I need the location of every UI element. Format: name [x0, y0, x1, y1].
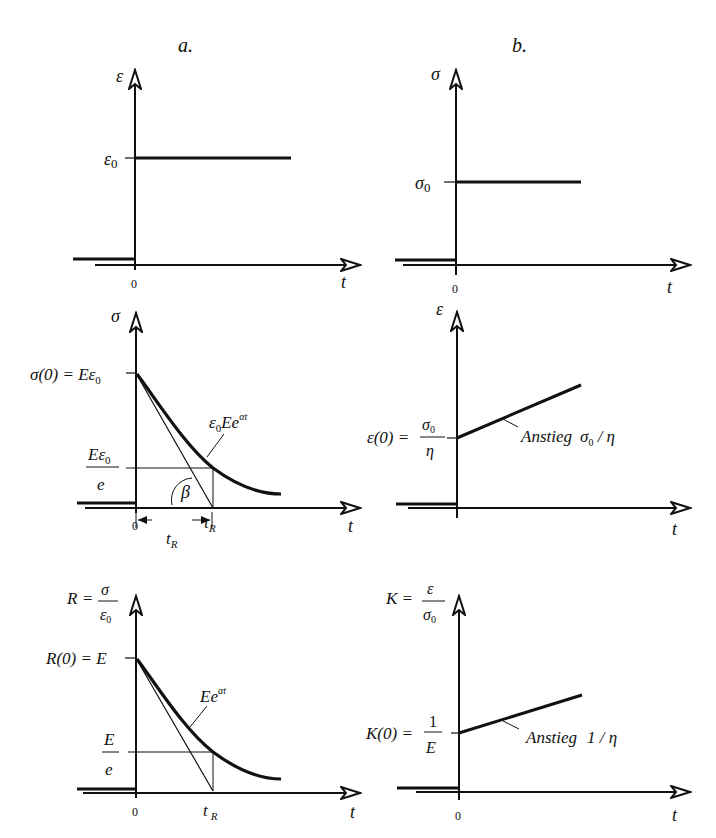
svg-text:σ0: σ0 — [422, 416, 435, 435]
svg-text:Eε0: Eε0 — [87, 445, 111, 466]
x-axis-label: t — [672, 805, 678, 825]
svg-text:σ0: σ0 — [423, 606, 436, 625]
column-label-a: a. — [178, 34, 193, 56]
level-label: ε0 — [104, 149, 118, 171]
level-label: σ0 — [415, 173, 430, 195]
curve-label: ε0Eeαt — [209, 411, 247, 434]
e-fraction-label: E e — [102, 730, 119, 779]
slope-label: Anstieg1 / η — [525, 728, 617, 747]
tR-label: tR — [203, 801, 218, 822]
curve-label-leader — [207, 434, 224, 457]
slope-label: Anstiegσ0 / η — [520, 427, 615, 448]
x-axis-label: t — [350, 802, 356, 822]
x-axis-label: t — [348, 516, 354, 536]
svg-text:σ: σ — [101, 581, 110, 598]
svg-text:K =: K = — [385, 589, 413, 608]
tau-label: τR — [203, 513, 216, 534]
origin-label: 0 — [132, 805, 138, 819]
relaxation-curve — [137, 374, 281, 494]
y-axis-label: K = ε σ0 — [385, 580, 445, 625]
angle-label: β — [180, 482, 190, 502]
origin-label: 0 — [455, 809, 461, 823]
svg-text:E: E — [103, 730, 115, 749]
rheology-diagram: a. b. ε ε0 0 t σ σ0 0 t — [0, 0, 716, 838]
x-axis-label: t — [667, 277, 673, 297]
svg-text:e: e — [105, 760, 113, 779]
start-value-label: K(0) = 1 E — [365, 713, 442, 756]
panel-b1-stress-step: σ σ0 0 t — [395, 64, 690, 297]
start-value-label: σ(0) = Eε0 — [30, 365, 101, 386]
svg-text:η: η — [426, 442, 434, 460]
svg-text:ε: ε — [427, 580, 434, 597]
x-axis-label: t — [341, 272, 347, 292]
svg-text:ε0: ε0 — [100, 606, 111, 625]
panel-a3-relaxation-function: R = σ ε0 R(0) = E E e Eeαt 0 tR t — [45, 581, 360, 822]
slope-label-leader — [503, 721, 519, 729]
slope-label-leader — [503, 419, 518, 427]
svg-text:R =: R = — [66, 589, 93, 608]
origin-label: 0 — [131, 277, 137, 291]
e-fraction-label: Eε0 e — [86, 445, 119, 494]
y-axis-label: σ — [431, 64, 441, 84]
panel-b3-creep-function: K = ε σ0 K(0) = 1 E Anstieg1 / η 0 t — [365, 580, 690, 825]
svg-text:E: E — [425, 739, 436, 756]
panel-a2-stress-relaxation: σ σ(0) = Eε0 Eε0 e ε0Eeαt β 0 τR tR t — [30, 306, 360, 550]
svg-text:e: e — [97, 475, 105, 494]
column-label-b: b. — [512, 34, 527, 56]
tangent-line — [137, 660, 213, 791]
interval-label: tR — [166, 529, 178, 550]
panel-a1-strain-step: ε ε0 0 t — [73, 66, 360, 292]
y-axis-label: ε — [116, 66, 124, 86]
curve-label: Eeαt — [199, 685, 226, 706]
panel-b2-creep: ε ε(0) = σ0 η Anstiegσ0 / η t — [367, 299, 690, 539]
start-value-label: R(0) = E — [45, 649, 107, 668]
svg-text:K(0) =: K(0) = — [365, 724, 413, 743]
origin-label: 0 — [132, 519, 138, 533]
svg-text:1: 1 — [429, 713, 437, 730]
curve-label-leader — [190, 706, 207, 727]
y-axis-label: σ — [111, 306, 121, 326]
svg-text:ε(0) =: ε(0) = — [367, 428, 409, 447]
y-axis-label: R = σ ε0 — [66, 581, 118, 625]
start-value-label: ε(0) = σ0 η — [367, 416, 445, 460]
y-axis-label: ε — [436, 299, 444, 319]
origin-label: 0 — [452, 282, 458, 296]
x-axis-label: t — [672, 519, 678, 539]
relaxation-curve — [137, 659, 281, 779]
